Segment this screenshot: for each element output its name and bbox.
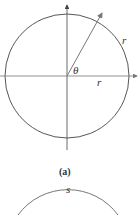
arc-s-label: s (66, 183, 70, 195)
radius-label: r (97, 76, 102, 88)
figure-a: θ r r (a) (0, 5, 137, 178)
diagram-canvas: θ r r (a) s (0, 0, 139, 215)
theta-label: θ (73, 64, 79, 76)
caption-a: (a) (59, 166, 71, 178)
arc-s-top (18, 194, 118, 216)
figure-b: s (18, 183, 118, 215)
arc-length-label: r (122, 34, 127, 46)
